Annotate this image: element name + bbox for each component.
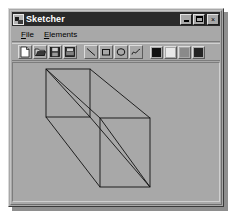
curve-tool[interactable]: [129, 45, 143, 59]
drawing-canvas[interactable]: Lines and rectangles: [12, 62, 220, 202]
color-white[interactable]: [164, 46, 177, 59]
minimize-icon: [181, 15, 191, 24]
sketcher-window: Sketcher × File Elements: [8, 8, 224, 207]
draw-tool-group: [84, 45, 143, 59]
circle-tool[interactable]: [114, 45, 128, 59]
menu-elements-rest: lements: [49, 30, 77, 39]
menu-item-file[interactable]: File: [16, 28, 39, 41]
close-icon: ×: [208, 15, 218, 24]
maximize-button[interactable]: [193, 14, 205, 25]
window-title: Sketcher: [26, 14, 180, 25]
print-tool[interactable]: [63, 45, 77, 59]
color-swatch-group: [150, 46, 205, 59]
menu-file-rest: ile: [26, 30, 34, 39]
minimize-button[interactable]: [180, 14, 192, 25]
save-tool[interactable]: [48, 45, 62, 59]
color-gray[interactable]: [178, 46, 191, 59]
tool-bar: [12, 43, 220, 61]
sketcher-app-icon[interactable]: [13, 14, 24, 25]
wireframe-box-drawing: [13, 63, 219, 201]
maximize-icon: [194, 15, 204, 24]
line-tool[interactable]: [84, 45, 98, 59]
color-black[interactable]: [150, 46, 163, 59]
new-document-tool[interactable]: [18, 45, 32, 59]
color-dark[interactable]: [192, 46, 205, 59]
close-button[interactable]: ×: [207, 14, 219, 25]
rectangle-tool[interactable]: [99, 45, 113, 59]
menu-bar: File Elements: [12, 27, 220, 42]
screenshot-root: Sketcher × File Elements: [0, 0, 234, 224]
open-folder-tool[interactable]: [33, 45, 47, 59]
title-bar[interactable]: Sketcher ×: [12, 12, 220, 26]
window-controls: ×: [180, 14, 219, 25]
menu-item-elements[interactable]: Elements: [39, 28, 82, 41]
file-tool-group: [18, 45, 77, 59]
